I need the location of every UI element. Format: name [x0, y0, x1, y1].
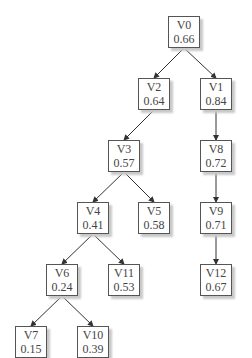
node-label: V11 — [114, 266, 134, 280]
edge-v4-v6 — [62, 234, 93, 264]
node-label: V12 — [206, 266, 227, 280]
node-value: 0.66 — [174, 32, 195, 46]
node-value: 0.58 — [144, 218, 165, 232]
node-v3: V30.57 — [108, 140, 140, 172]
node-v8: V80.72 — [200, 140, 232, 172]
node-value: 0.64 — [144, 94, 165, 108]
edge-v0-v2 — [154, 48, 184, 78]
edge-v0-v1 — [184, 48, 216, 78]
node-label: V6 — [55, 266, 70, 280]
node-v1: V10.84 — [200, 78, 232, 110]
node-value: 0.67 — [206, 280, 227, 294]
node-value: 0.71 — [206, 218, 227, 232]
node-v0: V00.66 — [168, 16, 200, 48]
node-v7: V70.15 — [15, 326, 47, 358]
node-value: 0.53 — [114, 280, 135, 294]
node-v5: V50.58 — [138, 202, 170, 234]
node-value: 0.57 — [114, 156, 135, 170]
node-label: V10 — [83, 328, 104, 342]
node-label: V5 — [147, 204, 162, 218]
node-label: V7 — [24, 328, 39, 342]
node-value: 0.41 — [83, 218, 104, 232]
node-label: V2 — [147, 80, 162, 94]
node-label: V4 — [86, 204, 101, 218]
node-value: 0.15 — [21, 342, 42, 356]
node-v12: V120.67 — [200, 264, 232, 296]
edge-v6-v10 — [62, 296, 93, 326]
edge-v4-v11 — [93, 234, 124, 264]
node-v2: V20.64 — [138, 78, 170, 110]
node-label: V8 — [209, 142, 224, 156]
node-v11: V110.53 — [108, 264, 140, 296]
edge-v3-v5 — [124, 172, 154, 202]
node-value: 0.39 — [83, 342, 104, 356]
node-label: V0 — [177, 18, 192, 32]
node-value: 0.24 — [52, 280, 73, 294]
edge-v2-v3 — [124, 110, 154, 140]
node-label: V3 — [117, 142, 132, 156]
node-value: 0.84 — [206, 94, 227, 108]
edge-v6-v7 — [31, 296, 62, 326]
node-label: V9 — [209, 204, 224, 218]
node-v9: V90.71 — [200, 202, 232, 234]
node-v10: V100.39 — [77, 326, 109, 358]
node-v4: V40.41 — [77, 202, 109, 234]
node-label: V1 — [209, 80, 224, 94]
edge-v3-v4 — [93, 172, 124, 202]
node-v6: V60.24 — [46, 264, 78, 296]
node-value: 0.72 — [206, 156, 227, 170]
